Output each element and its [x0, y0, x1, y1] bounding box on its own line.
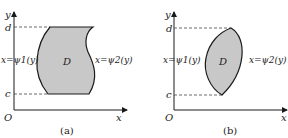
y-axis-label: y: [164, 9, 171, 20]
caption-a: (a): [60, 125, 74, 136]
right-curve-label: x=ψ2(y): [95, 55, 133, 65]
y-axis-label: y: [4, 9, 11, 20]
caption-b: (b): [223, 125, 237, 136]
x-axis-label: x: [116, 112, 122, 123]
tick-c-label: c: [166, 89, 172, 100]
right-curve-label: x=ψ2(y): [249, 55, 287, 65]
region-label: D: [62, 56, 71, 67]
figure-canvas: y x O d c D x=ψ1(y) x=ψ2(y) (a) y x O d …: [0, 0, 288, 138]
x-axis-label: x: [281, 112, 287, 123]
origin-label: O: [165, 112, 173, 123]
left-curve-label: x=ψ1(y): [163, 55, 201, 65]
tick-c-label: c: [5, 88, 11, 99]
tick-d-label: d: [5, 22, 11, 33]
panel-b: y x O d c D x=ψ1(y) x=ψ2(y) (b): [163, 9, 287, 136]
left-curve-label: x=ψ1(y): [1, 55, 39, 65]
region-label: D: [218, 56, 227, 67]
panel-a: y x O d c D x=ψ1(y) x=ψ2(y) (a): [1, 9, 133, 136]
origin-label: O: [4, 112, 12, 123]
tick-d-label: d: [166, 23, 172, 34]
